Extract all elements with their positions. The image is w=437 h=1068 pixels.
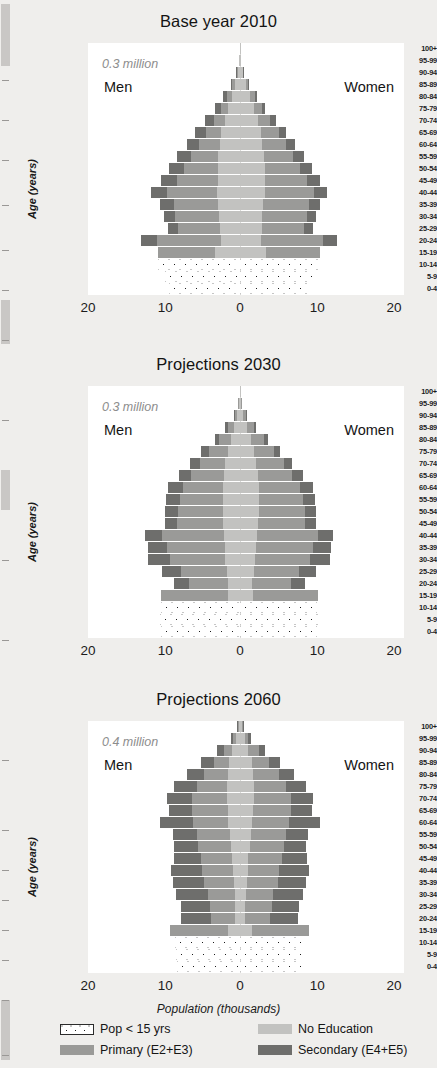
y-axis-tick-label: 90-94: [419, 747, 437, 754]
men-label: Men: [104, 79, 132, 95]
bar-segment-no-education: [240, 115, 258, 126]
bar-segment-pop-under-15: [240, 614, 319, 625]
bar-segment-no-education: [240, 745, 248, 756]
bar-segment-pop-under-15: [240, 259, 320, 270]
bar-segment-no-education: [240, 554, 255, 565]
bar-segment-no-education: [240, 853, 248, 864]
bar-segment-secondary-e4-e5: [304, 223, 312, 234]
bar-segment-secondary-e4-e5: [262, 103, 266, 114]
y-axis-tick-label: 70-74: [419, 117, 437, 124]
y-axis-title: Age (years): [26, 837, 38, 897]
bar-segment-secondary-e4-e5: [284, 458, 292, 469]
page-edge-tick: [2, 340, 9, 341]
x-axis-tick-label: 10: [158, 643, 173, 658]
bar-segment-secondary-e4-e5: [274, 446, 280, 457]
page-edge-tick: [2, 760, 9, 761]
y-axis-tick-label: 60-64: [419, 141, 437, 148]
bar-segment-no-education: [240, 841, 250, 852]
bar-segment-secondary-e4-e5: [248, 79, 249, 90]
y-axis-tick-label: 15-19: [419, 927, 437, 934]
legend-item-noedu: No Education: [258, 1022, 373, 1036]
bar-segment-no-education: [240, 223, 262, 234]
bar-segment-primary-e2-e3: [247, 877, 278, 888]
bar-segment-primary-e2-e3: [252, 925, 308, 936]
pyramid-bar-women: [88, 901, 404, 912]
bar-segment-primary-e2-e3: [253, 805, 291, 816]
y-axis-tick-label: 55-59: [419, 153, 437, 160]
y-axis-tick-label: 25-29: [419, 568, 437, 575]
bar-segment-no-education: [240, 805, 253, 816]
pyramid-bar-women: [88, 805, 404, 816]
pyramid-bar-women: [88, 151, 404, 162]
pyramid-bar-women: [88, 494, 404, 505]
x-axis-tick-label: 20: [386, 978, 401, 993]
y-axis-tick-label: 70-74: [419, 460, 437, 467]
page-edge-block: [1, 300, 10, 344]
bar-segment-secondary-e4-e5: [286, 781, 305, 792]
y-axis-tick-label: 20-24: [419, 237, 437, 244]
bar-segment-primary-e2-e3: [251, 434, 264, 445]
bar-segment-primary-e2-e3: [262, 211, 307, 222]
pyramid-bar-women: [88, 721, 404, 732]
bar-segment-secondary-e4-e5: [307, 175, 319, 186]
bar-segment-no-education: [240, 781, 254, 792]
bar-segment-no-education: [240, 482, 259, 493]
bar-segment-primary-e2-e3: [254, 781, 286, 792]
bar-segment-secondary-e4-e5: [273, 889, 303, 900]
bar-segment-secondary-e4-e5: [291, 805, 312, 816]
bar-segment-primary-e2-e3: [253, 769, 278, 780]
x-axis-tick-label: 0: [236, 643, 244, 658]
bar-segment-no-education: [240, 151, 264, 162]
bar-segment-no-education: [240, 247, 266, 258]
pyramid-bar-women: [88, 482, 404, 493]
x-axis-tick-labels: 201001020: [88, 643, 404, 665]
men-label: Men: [104, 422, 132, 438]
page-edge-tick: [2, 290, 9, 291]
y-axis-tick-label: 95-99: [419, 57, 437, 64]
pyramid-bar-women: [88, 853, 404, 864]
pyramid-bar-women: [88, 602, 404, 613]
y-axis-tick-label: 55-59: [419, 831, 437, 838]
plot-area: 0.3 millionMenWomen: [88, 386, 404, 638]
bar-segment-secondary-e4-e5: [279, 865, 308, 876]
y-axis-tick-label: 60-64: [419, 484, 437, 491]
pyramid-bar-women: [88, 103, 404, 114]
bar-segment-secondary-e4-e5: [291, 578, 305, 589]
y-axis-tick-label: 30-34: [419, 213, 437, 220]
bar-segment-secondary-e4-e5: [305, 518, 316, 529]
bar-segment-secondary-e4-e5: [279, 769, 294, 780]
bar-segment-secondary-e4-e5: [313, 542, 332, 553]
y-axis-tick-label: 55-59: [419, 496, 437, 503]
bar-segment-secondary-e4-e5: [305, 506, 316, 517]
bar-segment-no-education: [240, 235, 261, 246]
bar-segment-primary-e2-e3: [262, 139, 285, 150]
bar-segment-secondary-e4-e5: [286, 829, 308, 840]
bar-segment-no-education: [240, 566, 254, 577]
y-axis-tick-label: 70-74: [419, 795, 437, 802]
bar-segment-primary-e2-e3: [247, 422, 254, 433]
y-axis-tick-label: 35-39: [419, 201, 437, 208]
panel-title: Projections 2060: [0, 690, 437, 709]
bar-segment-pop-under-15: [240, 937, 303, 948]
y-axis-tick-label: 30-34: [419, 891, 437, 898]
page-edge-tick: [2, 120, 9, 121]
y-axis-tick-label: 5-9: [427, 616, 437, 623]
bar-segment-secondary-e4-e5: [289, 817, 320, 828]
y-axis-title: Age (years): [26, 159, 38, 219]
y-axis-tick-label: 30-34: [419, 556, 437, 563]
pyramid-bar-women: [88, 235, 404, 246]
legend-swatch-primary: [60, 1045, 94, 1055]
y-axis-tick-label: 40-44: [419, 867, 437, 874]
bar-segment-primary-e2-e3: [252, 757, 270, 768]
page-edge-tick: [2, 870, 9, 871]
pyramid-bar-women: [88, 139, 404, 150]
bar-segment-secondary-e4-e5: [284, 841, 306, 852]
bar-segment-primary-e2-e3: [248, 853, 281, 864]
y-axis-tick-label: 50-54: [419, 508, 437, 515]
bar-segment-primary-e2-e3: [266, 247, 320, 258]
pyramid-bar-women: [88, 43, 404, 54]
pyramid-bar-women: [88, 211, 404, 222]
y-axis-tick-label: 75-79: [419, 783, 437, 790]
y-axis-tick-label: 40-44: [419, 189, 437, 196]
bar-segment-pop-under-15: [240, 283, 309, 294]
